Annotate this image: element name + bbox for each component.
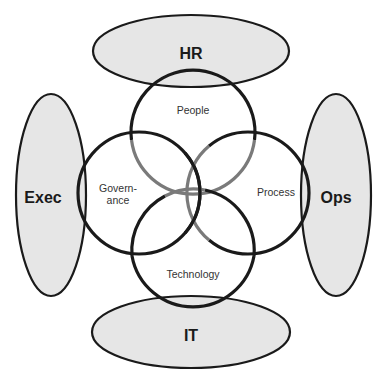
label-governance-line1: Govern-: [99, 182, 137, 194]
label-ops: Ops: [320, 189, 351, 206]
label-process: Process: [257, 186, 295, 198]
label-governance-line2: ance: [107, 194, 130, 206]
circle-process-upper: [209, 132, 248, 146]
label-exec: Exec: [24, 189, 61, 206]
diagram-canvas: HR Exec Ops IT People Govern- ance Proce…: [0, 0, 383, 379]
circle-process-lower: [209, 240, 248, 254]
label-technology: Technology: [166, 268, 220, 280]
label-people: People: [177, 104, 210, 116]
label-it: IT: [184, 327, 198, 344]
circle-technology-upper-left: [132, 196, 165, 256]
stakeholder-ellipses: [16, 15, 371, 368]
circle-technology-upper-right: [205, 190, 254, 256]
label-hr: HR: [179, 45, 203, 62]
